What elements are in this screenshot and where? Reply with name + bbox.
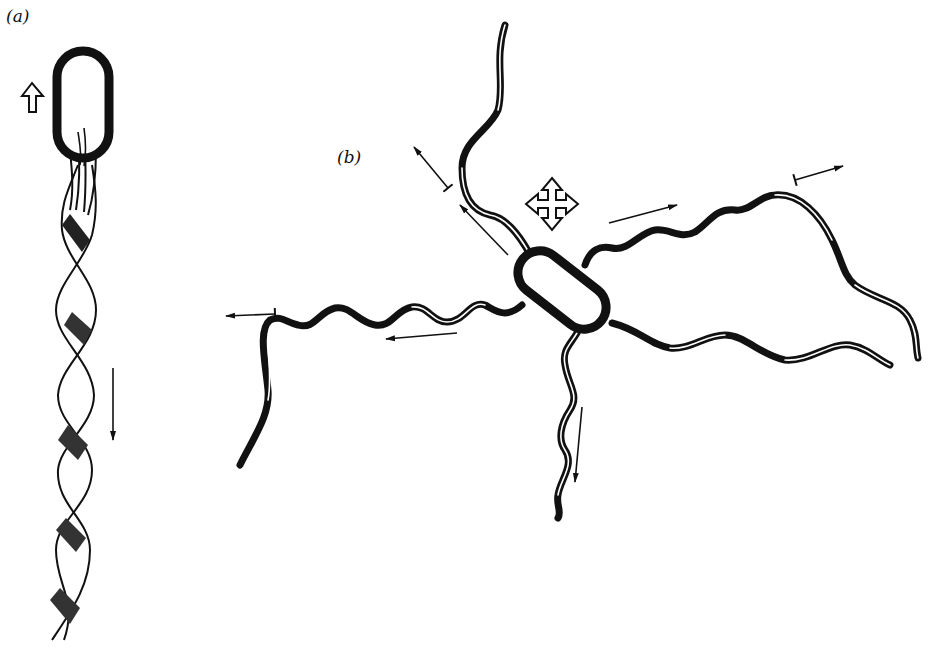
four-way-arrow-icon <box>526 178 578 230</box>
panel-b <box>226 25 918 518</box>
arrow-left-outer <box>226 314 275 316</box>
flagellum-bottom <box>558 333 577 518</box>
arrow-bottom <box>575 407 582 482</box>
flagellum-left <box>240 304 522 465</box>
arrow-top-left-outer <box>414 147 448 188</box>
flagella-diagram <box>0 0 936 653</box>
arrow-right-inner <box>609 205 677 223</box>
panel-a <box>22 51 113 640</box>
flagellum-lower-right <box>612 323 890 365</box>
open-up-arrow-icon <box>22 83 43 112</box>
arrow-left-inner <box>386 333 457 339</box>
bacterium-cell-a <box>57 51 109 158</box>
arrow-right-outer <box>795 166 843 180</box>
flagellar-bundle <box>50 125 96 640</box>
flagellum-top <box>462 25 532 258</box>
bacterium-cell-b <box>509 242 615 338</box>
